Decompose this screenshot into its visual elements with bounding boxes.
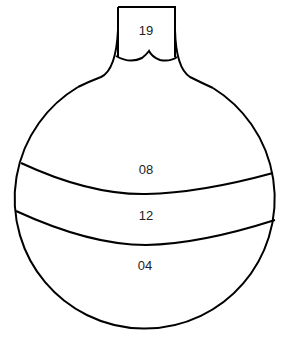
label-neck: 19 [139, 23, 153, 38]
label-bottom-band: 04 [138, 258, 152, 273]
label-middle-band: 12 [139, 208, 153, 223]
neck-scallop [116, 51, 177, 61]
flask-shoulder-left [78, 7, 118, 87]
label-top-band: 08 [139, 162, 153, 177]
flask-outline [0, 0, 289, 356]
flask-shoulder-right [175, 7, 213, 88]
flask-diagram: 19 08 12 04 [0, 0, 289, 356]
